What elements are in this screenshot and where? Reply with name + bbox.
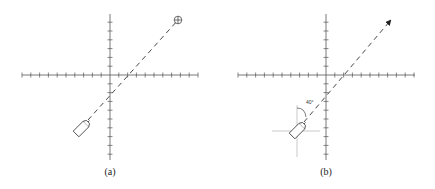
target-marker-icon [174,16,182,24]
panel-a-axes [22,14,198,160]
boat-icon [289,120,308,139]
panel-a-label: (a) [104,166,115,177]
course-arrow [304,21,390,122]
panel-a [22,14,198,160]
panel-b [238,14,415,160]
angle-annotation: 40° [306,99,314,105]
panel-b-axes [238,14,415,160]
panel-b-label: (b) [320,166,332,177]
course-line [88,20,178,120]
angle-arc [297,108,306,117]
navigation-diagram [0,0,435,189]
boat-icon [73,118,92,137]
